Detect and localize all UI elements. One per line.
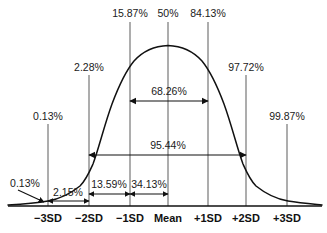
- label-cum-neg3sd: 0.13%: [33, 110, 63, 122]
- axis-tick-neg3sd: −3SD: [34, 212, 62, 224]
- axis-tick-pos3sd: +3SD: [273, 212, 301, 224]
- axis-tick-pos1sd: +1SD: [194, 212, 222, 224]
- label-interval-95: 95.44%: [150, 139, 186, 151]
- label-cum-pos1sd: 84.13%: [190, 7, 226, 19]
- label-cum-neg1sd: 15.87%: [112, 7, 148, 19]
- label-cum-neg2sd: 2.28%: [74, 61, 104, 73]
- pointer-tail-0-13: [18, 190, 44, 202]
- label-cum-pos3sd: 99.87%: [269, 110, 305, 122]
- label-interval-13-59: 13.59%: [91, 178, 127, 190]
- axis-tick-neg1sd: −1SD: [116, 212, 144, 224]
- axis-tick-pos2sd: +2SD: [232, 212, 260, 224]
- label-interval-34-13: 34.13%: [131, 178, 167, 190]
- axis-tick-neg2sd: −2SD: [75, 212, 103, 224]
- axis-tick-mean: Mean: [154, 212, 182, 224]
- label-interval-68: 68.26%: [151, 85, 187, 97]
- label-cum-mean: 50%: [157, 7, 178, 19]
- label-cum-pos2sd: 97.72%: [228, 61, 264, 73]
- label-interval-0-13-tail: 0.13%: [10, 177, 40, 189]
- label-interval-2-15: 2.15%: [53, 186, 83, 198]
- normal-distribution-figure: 0.13% 2.28% 15.87% 50% 84.13% 97.72% 99.…: [0, 0, 327, 233]
